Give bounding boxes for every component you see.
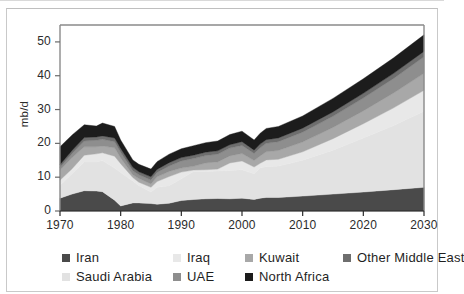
legend-swatch-icon — [245, 254, 253, 262]
legend-item-iraq: Iraq — [173, 248, 210, 267]
legend-item-saudi-arabia: Saudi Arabia — [62, 267, 152, 286]
chart-legend: IranIraqKuwaitOther Middle East Saudi Ar… — [62, 248, 438, 286]
legend-item-iran: Iran — [62, 248, 99, 267]
legend-swatch-icon — [245, 273, 253, 281]
legend-swatch-icon — [173, 254, 181, 262]
legend-item-label: Iran — [76, 251, 99, 264]
legend-item-label: North Africa — [259, 270, 329, 283]
legend-item-north-africa: North Africa — [245, 267, 329, 286]
legend-item-label: Saudi Arabia — [76, 270, 152, 283]
legend-item-label: Kuwait — [259, 251, 299, 264]
legend-item-kuwait: Kuwait — [245, 248, 299, 267]
legend-swatch-icon — [62, 254, 70, 262]
legend-item-other-middle-east: Other Middle East — [343, 248, 464, 267]
legend-item-label: Other Middle East — [357, 251, 464, 264]
legend-item-label: UAE — [187, 270, 214, 283]
legend-swatch-icon — [343, 254, 351, 262]
legend-swatch-icon — [173, 273, 181, 281]
legend-item-label: Iraq — [187, 251, 210, 264]
legend-swatch-icon — [62, 273, 70, 281]
legend-row-1: IranIraqKuwaitOther Middle East — [62, 248, 438, 267]
legend-row-2: Saudi ArabiaUAENorth Africa — [62, 267, 438, 286]
legend-item-uae: UAE — [173, 267, 214, 286]
